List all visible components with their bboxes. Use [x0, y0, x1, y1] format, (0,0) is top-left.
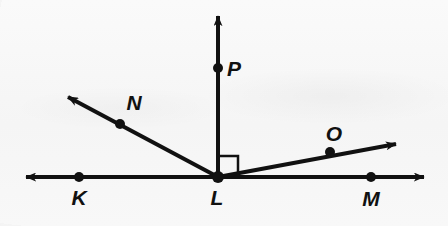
- geometry-diagram: K L M N O P: [0, 0, 448, 226]
- point-label-O: O: [326, 122, 342, 145]
- point-dot-L: [212, 171, 224, 183]
- point-label-N: N: [126, 91, 142, 114]
- point-dot-M: [366, 172, 376, 182]
- point-dot-P: [213, 63, 223, 73]
- point-dot-N: [115, 119, 125, 129]
- point-label-K: K: [71, 186, 88, 209]
- point-label-M: M: [362, 187, 380, 210]
- ray-LO: [218, 144, 396, 177]
- point-label-P: P: [227, 57, 242, 80]
- point-dot-O: [325, 147, 335, 157]
- ray-LN: [68, 97, 218, 177]
- geometry-canvas: K L M N O P: [0, 0, 448, 226]
- point-label-L: L: [211, 186, 224, 209]
- point-dot-K: [74, 172, 84, 182]
